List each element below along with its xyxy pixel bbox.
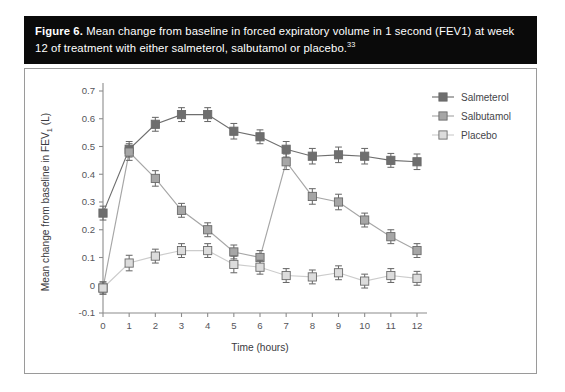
x-tick-label: 11: [386, 320, 396, 331]
x-tick-label: 12: [412, 320, 423, 331]
y-tick-label: 0.7: [82, 85, 95, 96]
data-point-salmeterol: [204, 110, 212, 118]
y-tick-label: 0.6: [82, 113, 95, 124]
data-point-salmeterol: [177, 110, 185, 118]
figure-label: Figure 6.: [35, 25, 83, 37]
data-point-salbutamol: [334, 198, 342, 206]
data-point-placebo: [282, 271, 290, 279]
x-tick-label: 0: [100, 320, 105, 331]
data-point-placebo: [99, 284, 107, 292]
y-tick-label: 0.5: [82, 141, 95, 152]
y-tick-label: 0: [90, 280, 95, 291]
legend-swatch-salbutamol: [439, 112, 447, 120]
data-point-placebo: [361, 277, 369, 285]
data-point-salbutamol: [308, 192, 316, 200]
figure-caption-text: Mean change from baseline in forced expi…: [35, 25, 514, 54]
data-point-placebo: [151, 252, 159, 260]
y-tick-label: -0.1: [78, 307, 95, 318]
data-point-salbutamol: [204, 226, 212, 234]
data-point-salmeterol: [256, 133, 264, 141]
data-point-salmeterol: [308, 152, 316, 160]
x-tick-label: 8: [310, 320, 315, 331]
x-tick-label: 1: [126, 320, 131, 331]
data-point-salmeterol: [282, 145, 290, 153]
data-point-salbutamol: [361, 216, 369, 224]
data-point-salmeterol: [361, 152, 369, 160]
data-point-placebo: [387, 271, 395, 279]
data-point-salmeterol: [413, 158, 421, 166]
data-point-salbutamol: [413, 246, 421, 254]
x-tick-label: 9: [336, 320, 341, 331]
data-point-salbutamol: [177, 206, 185, 214]
fev1-line-chart: -0.100.10.20.30.40.50.60.701234567891011…: [25, 69, 536, 373]
chart-panel: -0.100.10.20.30.40.50.60.701234567891011…: [24, 68, 537, 374]
data-point-placebo: [204, 246, 212, 254]
figure-reference: 33: [347, 40, 355, 49]
data-point-salmeterol: [99, 209, 107, 217]
legend-swatch-placebo: [439, 131, 447, 139]
y-axis-title: Mean change from baseline in FEV1 (L): [40, 113, 54, 292]
svg-text:Mean change from baseline in F: Mean change from baseline in FEV1 (L): [40, 113, 54, 292]
legend-label-salbutamol: Salbutamol: [461, 111, 511, 122]
x-tick-label: 7: [283, 320, 288, 331]
data-point-placebo: [125, 259, 133, 267]
data-point-salmeterol: [387, 156, 395, 164]
x-tick-label: 10: [359, 320, 370, 331]
data-point-placebo: [334, 269, 342, 277]
x-tick-label: 2: [153, 320, 158, 331]
figure-container: Figure 6. Mean change from baseline in f…: [0, 0, 565, 392]
data-point-salbutamol: [230, 248, 238, 256]
x-tick-label: 3: [179, 320, 184, 331]
x-tick-label: 6: [257, 320, 262, 331]
y-tick-label: 0.3: [82, 196, 95, 207]
data-point-placebo: [308, 273, 316, 281]
data-point-salbutamol: [387, 233, 395, 241]
figure-caption: Figure 6. Mean change from baseline in f…: [24, 16, 537, 64]
data-point-salmeterol: [334, 151, 342, 159]
data-point-salbutamol: [151, 174, 159, 182]
data-point-salmeterol: [151, 120, 159, 128]
legend-label-placebo: Placebo: [461, 130, 498, 141]
x-tick-label: 4: [205, 320, 211, 331]
legend-label-salmeterol: Salmeterol: [461, 92, 509, 103]
y-tick-label: 0.2: [82, 224, 95, 235]
data-point-salbutamol: [125, 148, 133, 156]
data-point-placebo: [230, 260, 238, 268]
data-point-salbutamol: [282, 158, 290, 166]
x-axis-title: Time (hours): [231, 342, 288, 353]
data-point-salmeterol: [230, 127, 238, 135]
y-tick-label: 0.4: [82, 169, 96, 180]
data-point-placebo: [413, 274, 421, 282]
legend-swatch-salmeterol: [439, 93, 447, 101]
x-tick-label: 5: [231, 320, 236, 331]
y-tick-label: 0.1: [82, 252, 95, 263]
data-point-placebo: [256, 263, 264, 271]
data-point-placebo: [177, 246, 185, 254]
